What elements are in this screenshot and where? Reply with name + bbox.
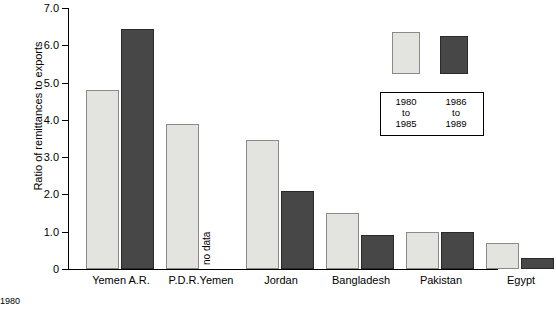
legend-label-1980: 1980 [383, 96, 429, 107]
bar-pdr-yemen-1980-1985 [166, 124, 199, 269]
bar-bangladesh-1980-1985 [326, 213, 359, 269]
y-tick-label-1: 1.0 [44, 226, 59, 238]
bar-jordan-1986-1989 [281, 191, 314, 269]
x-tick-label-pdr-yemen: P.D.R.Yemen [164, 274, 238, 286]
y-tick-label-6: 6.0 [44, 39, 59, 51]
bar-bangladesh-1986-1989 [361, 235, 394, 269]
bar-egypt-1980-1985 [486, 243, 519, 269]
bar-group-yemen-ar [86, 8, 156, 269]
bar-yemen-ar-1980-1985 [86, 90, 119, 269]
y-tick-label-0: 0 [53, 263, 59, 275]
legend-label-1989: 1989 [433, 118, 479, 129]
x-tick-label-egypt: Egypt [486, 274, 556, 286]
legend-label-to-2: to [433, 107, 479, 118]
legend-label-1986: 1986 [433, 96, 479, 107]
bar-egypt-1986-1989 [521, 258, 554, 269]
no-data-annotation: no data [201, 232, 212, 265]
bar-yemen-ar-1986-1989 [121, 29, 154, 269]
x-tick-label-yemen-ar: Yemen A.R. [86, 274, 156, 286]
bar-pakistan-1980-1985 [406, 232, 439, 269]
legend-label-1985: 1985 [383, 118, 429, 129]
chart-legend: 1980 to 1985 1986 to 1989 [380, 32, 484, 118]
bar-group-pdr-yemen: no data [166, 8, 236, 269]
bar-pakistan-1986-1989 [441, 232, 474, 269]
plot-area: 0 1.0 2.0 3.0 4.0 5.0 6.0 7.0 [68, 8, 498, 270]
x-tick-label-pakistan: Pakistan [406, 274, 476, 286]
legend-swatch-1986-1989 [440, 36, 468, 74]
x-axis-line [68, 269, 498, 270]
y-axis-title: Ratio of remittances to exports [32, 6, 44, 226]
legend-swatch-1980-1985 [392, 32, 420, 74]
y-tick-label-3: 3.0 [44, 151, 59, 163]
figure-caption: 1980 [0, 296, 20, 306]
y-tick-label-2: 2.0 [44, 188, 59, 200]
legend-label-to-1: to [383, 107, 429, 118]
y-tick-label-5: 5.0 [44, 77, 59, 89]
y-tick-label-4: 4.0 [44, 114, 59, 126]
x-tick-label-bangladesh: Bangladesh [324, 274, 398, 286]
bar-group-egypt [486, 8, 556, 269]
y-axis-line [68, 8, 69, 270]
y-tick-label-7: 7.0 [44, 2, 59, 14]
bar-group-jordan [246, 8, 316, 269]
x-tick-label-jordan: Jordan [246, 274, 316, 286]
bar-jordan-1980-1985 [246, 140, 279, 269]
